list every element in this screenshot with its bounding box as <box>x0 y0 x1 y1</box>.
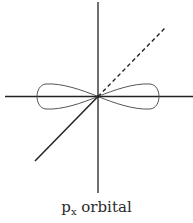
px-orbital-diagram <box>0 0 193 223</box>
caption-rest: orbital <box>77 198 132 216</box>
caption-p: p <box>61 198 71 216</box>
origin-point <box>96 95 99 98</box>
diagonal-axis-front <box>35 97 98 162</box>
diagram-caption: px orbital <box>0 198 193 221</box>
